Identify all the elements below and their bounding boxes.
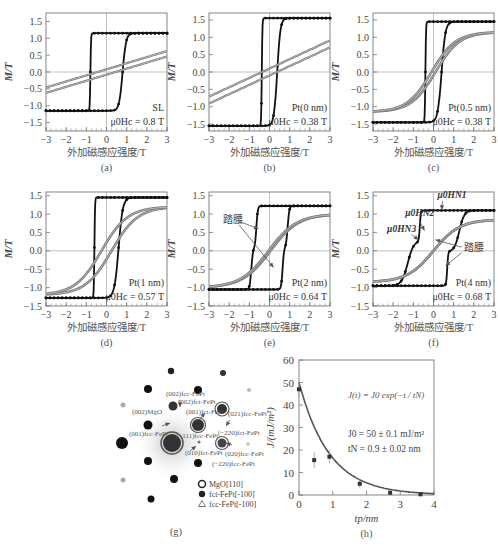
data-point: [149, 32, 152, 35]
legend-label: MgO[110]: [209, 480, 243, 489]
data-point: [428, 20, 431, 23]
sample-label: Pt(1 nm): [129, 277, 164, 289]
data-point: [240, 124, 243, 127]
diffraction-spot: [247, 388, 251, 392]
x-tick-label: 1: [451, 134, 456, 145]
data-point: [476, 20, 479, 23]
data-point: [460, 20, 463, 23]
data-point: [212, 124, 215, 127]
diffraction-spot: [144, 457, 152, 465]
data-point: [440, 20, 443, 23]
data-point: [208, 288, 211, 291]
y-tick-label: −0.5: [351, 264, 369, 275]
data-point: [97, 196, 100, 199]
data-point: [129, 32, 132, 35]
data-point: [412, 245, 415, 248]
data-point: [372, 284, 375, 287]
y-tick-label: 1.0: [30, 209, 43, 220]
data-point: [388, 121, 391, 124]
x-tick-label: −3: [41, 309, 52, 320]
data-point: [412, 121, 415, 124]
legend-label: fcc-FePt[-100]: [209, 500, 256, 509]
data-point: [284, 244, 287, 247]
data-point: [93, 32, 96, 35]
x-tick-label: 0: [104, 134, 109, 145]
coercivity-label: μ0Hc = 0.38 T: [268, 116, 327, 127]
diffraction-spot: [198, 441, 201, 444]
x-tick-label: 1: [287, 134, 292, 145]
data-point: [166, 32, 169, 35]
data-point: [109, 109, 112, 112]
data-point: [125, 39, 128, 42]
x-tick-label: 2: [144, 134, 149, 145]
data-point: [117, 103, 120, 106]
y-tick-label: 1.5: [193, 190, 206, 201]
data-point: [489, 209, 492, 212]
data-point: [292, 205, 295, 208]
x-axis-label: 外加磁感应强度/T: [394, 321, 474, 333]
y-tick-label: 0.0: [30, 67, 43, 78]
data-point: [133, 32, 136, 35]
data-point: [296, 17, 299, 20]
x-axis-label: 外加磁感应强度/T: [394, 146, 474, 158]
arrowhead-icon: [440, 205, 444, 210]
diffraction-label: (002)fct-FePt: [178, 398, 216, 406]
diffraction-label: (−220)fct-FePt: [218, 429, 260, 437]
data-point: [436, 110, 439, 113]
data-point: [65, 297, 68, 300]
data-point: [117, 246, 120, 249]
data-point: [472, 209, 475, 212]
x-tick-label: 0: [104, 309, 109, 320]
x-tick-label: 3: [398, 498, 404, 510]
data-point: [137, 196, 140, 199]
diffraction-label: (020)fcc-FePt: [225, 450, 264, 458]
data-point: [260, 288, 263, 291]
data-point: [288, 205, 291, 208]
data-point: [419, 492, 423, 496]
sample-label: Pt(4 nm): [456, 277, 491, 289]
data-point: [69, 109, 72, 112]
data-point: [485, 20, 488, 23]
callout-label: 踏腰: [223, 213, 243, 225]
y-tick-label: −0.5: [351, 84, 369, 95]
data-point: [321, 17, 324, 20]
data-point: [325, 17, 328, 20]
y-axis-label: M/T: [330, 239, 341, 259]
data-point: [137, 32, 140, 35]
y-axis-label: M/T: [166, 62, 177, 82]
data-point: [236, 124, 239, 127]
panel-caption: (f): [428, 337, 439, 349]
x-tick-label: 0: [431, 134, 436, 145]
data-point: [424, 71, 427, 74]
panel-caption: (d): [100, 337, 113, 349]
y-tick-label: −1.0: [187, 101, 205, 112]
y-axis-label: M/T: [3, 239, 14, 259]
data-point: [113, 109, 116, 112]
x-tick-label: 3: [492, 309, 497, 320]
y-tick-label: −1.0: [24, 282, 42, 293]
data-point: [101, 196, 104, 199]
filled-circle-icon: [199, 491, 205, 497]
data-point: [69, 297, 72, 300]
x-tick-label: 1: [330, 498, 336, 510]
data-point: [400, 280, 403, 283]
panel-caption: (h): [360, 528, 373, 540]
x-tick-label: 3: [492, 134, 497, 145]
y-tick-label: −1.0: [24, 100, 42, 111]
y-axis-label: M/T: [330, 62, 341, 82]
diffraction-spot: [220, 370, 226, 376]
data-point: [317, 205, 320, 208]
data-point: [129, 196, 132, 199]
sample-label: Pt(2 nm): [292, 277, 327, 289]
data-point: [308, 17, 311, 20]
x-axis-label: 外加磁感应强度/T: [230, 321, 310, 333]
x-axis-label: tp/nm: [355, 513, 379, 524]
data-point: [141, 32, 144, 35]
data-point: [125, 32, 128, 35]
data-point: [105, 32, 108, 35]
data-point: [228, 124, 231, 127]
data-point: [260, 102, 263, 105]
x-tick-label: −3: [41, 134, 52, 145]
x-tick-label: 2: [364, 498, 370, 510]
diffraction-spot: [168, 368, 174, 374]
